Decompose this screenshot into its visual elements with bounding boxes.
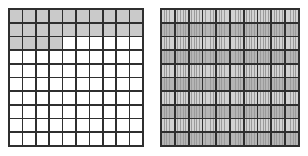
grid-cell (77, 133, 89, 145)
grid-cell-strip (211, 37, 213, 49)
grid-cell-strip (165, 37, 167, 49)
grid-cell-strip (225, 133, 227, 145)
grid-cell-strip (264, 37, 266, 49)
grid-cell (23, 119, 35, 131)
grid-cell-strip (258, 24, 260, 36)
grid-cell (63, 65, 75, 77)
grid-cell (23, 24, 35, 36)
grid-cell (63, 106, 75, 118)
grid-cell (104, 10, 116, 22)
thousandths-grid (160, 8, 300, 147)
grid-cell (190, 37, 202, 49)
grid-cell-strip (220, 37, 222, 49)
grid-cell-strip (220, 119, 222, 131)
hundredths-grid-panel (8, 8, 144, 147)
grid-cell-strip (286, 37, 288, 49)
grid-cell-strip (195, 106, 197, 118)
grid-cell-strip (286, 106, 288, 118)
grid-cell (190, 78, 202, 90)
grid-cell-strip (247, 65, 249, 77)
grid-cell (231, 133, 243, 145)
grid-cell-strip (233, 10, 235, 22)
grid-cell-strip (258, 65, 260, 77)
grid-cell-strip (296, 92, 298, 104)
grid-cell-strip (239, 133, 241, 145)
grid-cell (10, 78, 22, 90)
grid-cell (104, 106, 116, 118)
grid-cell (176, 119, 188, 131)
grid-cell (77, 10, 89, 22)
grid-cell-strip (184, 24, 186, 36)
grid-cell-strip (170, 24, 172, 36)
grid-cell (117, 106, 129, 118)
grid-cell-strip (206, 65, 208, 77)
grid-cell-strip (252, 119, 254, 131)
grid-cell-strip (261, 92, 263, 104)
hundredths-grid (8, 8, 144, 147)
grid-cell-strip (178, 51, 180, 63)
grid-cell-strip (184, 106, 186, 118)
grid-cell-strip (181, 37, 183, 49)
grid-cell-strip (283, 24, 285, 36)
grid-cell-strip (217, 106, 219, 118)
grid-cell-strip (162, 24, 164, 36)
grid-cell-strip (186, 119, 188, 131)
grid-cell-strip (176, 65, 178, 77)
grid-cell-strip (231, 65, 233, 77)
grid-cell-strip (241, 10, 243, 22)
grid-cell-strip (277, 78, 279, 90)
grid-cell-strip (288, 119, 290, 131)
grid-cell-strip (186, 92, 188, 104)
grid-cell-strip (283, 10, 285, 22)
grid-cell (258, 78, 270, 90)
grid-cell (258, 10, 270, 22)
grid-cell (217, 78, 229, 90)
grid-cell-strip (217, 65, 219, 77)
grid-cell-strip (222, 65, 224, 77)
grid-cell-strip (241, 24, 243, 36)
grid-cell-strip (172, 78, 174, 90)
grid-cell (176, 133, 188, 145)
grid-cell-strip (165, 78, 167, 90)
grid-cell (37, 119, 49, 131)
grid-cell-strip (200, 78, 202, 90)
grid-cell (286, 92, 298, 104)
grid-cell-strip (192, 65, 194, 77)
grid-cell-strip (200, 10, 202, 22)
grid-cell (37, 10, 49, 22)
grid-cell (63, 133, 75, 145)
grid-cell-strip (181, 92, 183, 104)
grid-cell-strip (184, 92, 186, 104)
grid-cell (10, 10, 22, 22)
grid-cell (50, 37, 62, 49)
grid-cell (231, 65, 243, 77)
grid-cell-strip (258, 92, 260, 104)
grid-cell (162, 24, 174, 36)
grid-cell-strip (211, 65, 213, 77)
grid-cell-strip (291, 133, 293, 145)
grid-cell-strip (186, 37, 188, 49)
grid-cell-strip (245, 51, 247, 63)
grid-cell (162, 37, 174, 49)
thousandths-grid-panel (160, 8, 300, 147)
grid-cell-strip (280, 92, 282, 104)
grid-cell-strip (195, 133, 197, 145)
grid-cell (203, 106, 215, 118)
grid-cell-strip (186, 65, 188, 77)
grid-cell-strip (162, 119, 164, 131)
grid-cell-strip (241, 92, 243, 104)
grid-cell-strip (239, 24, 241, 36)
grid-cell-strip (208, 92, 210, 104)
grid-cell-strip (172, 24, 174, 36)
grid-cell (286, 51, 298, 63)
grid-cell-strip (291, 65, 293, 77)
grid-cell-strip (167, 24, 169, 36)
grid-cell-strip (195, 51, 197, 63)
grid-cell-strip (275, 78, 277, 90)
grid-cell-strip (231, 37, 233, 49)
grid-cell-strip (294, 119, 296, 131)
grid-cell (77, 119, 89, 131)
grid-cell (245, 37, 257, 49)
grid-cell (104, 51, 116, 63)
grid-cell-strip (275, 65, 277, 77)
